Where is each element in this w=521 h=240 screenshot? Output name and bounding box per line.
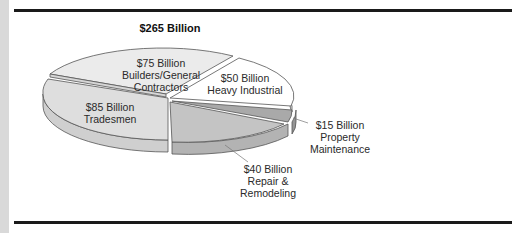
label-property-value: $15 Billion <box>300 119 380 131</box>
label-builders-value: $75 Billion <box>96 57 226 69</box>
label-property: $15 Billion Property Maintenance <box>300 119 380 155</box>
label-heavy-value: $50 Billion <box>190 72 300 84</box>
label-tradesmen-value: $85 Billion <box>60 101 160 113</box>
label-repair-line1: Repair & <box>228 175 308 187</box>
label-heavy-line1: Heavy Industrial <box>190 84 300 96</box>
label-property-line2: Maintenance <box>300 143 380 155</box>
label-property-line1: Property <box>300 131 380 143</box>
label-tradesmen: $85 Billion Tradesmen <box>60 101 160 125</box>
label-repair-line2: Remodeling <box>228 187 308 199</box>
label-tradesmen-line1: Tradesmen <box>60 113 160 125</box>
label-heavy: $50 Billion Heavy Industrial <box>190 72 300 96</box>
label-repair: $40 Billion Repair & Remodeling <box>228 163 308 199</box>
slice-property-side <box>292 110 296 134</box>
label-repair-value: $40 Billion <box>228 163 308 175</box>
